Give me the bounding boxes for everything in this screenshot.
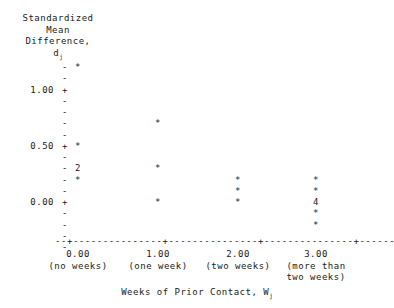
y-axis-title-line-3: dj (8, 49, 108, 61)
data-point-11: * (311, 187, 321, 196)
x-axis-tick-caption-3-0: (more than (271, 262, 361, 271)
y-axis-tick-label-1: 0.50 (12, 142, 54, 151)
y-axis-tick-7: + (60, 142, 70, 151)
y-axis-tick-4: - (60, 108, 70, 117)
x-axis-tick-caption-2-0: (two weeks) (193, 262, 283, 271)
data-point-1: * (73, 142, 83, 151)
data-point-9: * (233, 198, 243, 207)
y-axis-tick-12: + (60, 198, 70, 207)
x-axis-line: --+---------------+---------------+-----… (55, 237, 394, 246)
y-axis-tick-2: + (60, 86, 70, 95)
y-axis-tick-label-0: 1.00 (12, 86, 54, 95)
data-point-0: * (73, 63, 83, 72)
x-axis-title: Weeks of Prior Contact, Wj (97, 288, 297, 300)
x-axis-tick-caption-0-0: (no weeks) (33, 262, 123, 271)
x-axis-tick-label-0: 0.00 (33, 250, 123, 259)
y-axis-title-line-1: Mean (8, 26, 108, 35)
y-axis-tick-label-2: 0.00 (12, 198, 54, 207)
y-axis-title-line-2: Difference, (8, 37, 108, 46)
y-axis-tick-14: - (60, 221, 70, 230)
data-point-3: * (73, 176, 83, 185)
x-axis-tick-caption-3-1: two weeks) (271, 273, 361, 282)
x-axis-tick-label-2: 2.00 (193, 250, 283, 259)
ascii-scatter-plot: StandardizedMeanDifference,dj--+1.00----… (0, 0, 394, 308)
data-point-5: * (153, 164, 163, 173)
y-axis-tick-9: - (60, 164, 70, 173)
data-point-4: * (153, 119, 163, 128)
data-point-2: 2 (73, 164, 83, 173)
x-axis-tick-label-1: 1.00 (113, 250, 203, 259)
y-axis-tick-10: - (60, 176, 70, 185)
y-axis-tick-11: - (60, 187, 70, 196)
y-axis-tick-3: - (60, 97, 70, 106)
data-point-10: * (311, 176, 321, 185)
x-axis-tick-caption-1-0: (one week) (113, 262, 203, 271)
data-point-8: * (233, 187, 243, 196)
y-axis-tick-0: - (60, 63, 70, 72)
y-axis-tick-1: - (60, 74, 70, 83)
y-axis-title-line-0: Standardized (8, 14, 108, 23)
data-point-12: 4 (311, 198, 321, 207)
y-axis-tick-5: - (60, 119, 70, 128)
x-axis-tick-label-3: 3.00 (271, 250, 361, 259)
data-point-6: * (153, 198, 163, 207)
data-point-13: * (311, 209, 321, 218)
y-axis-tick-6: - (60, 131, 70, 140)
y-axis-tick-8: - (60, 153, 70, 162)
y-axis-tick-13: - (60, 209, 70, 218)
data-point-14: * (311, 221, 321, 230)
data-point-7: * (233, 176, 243, 185)
